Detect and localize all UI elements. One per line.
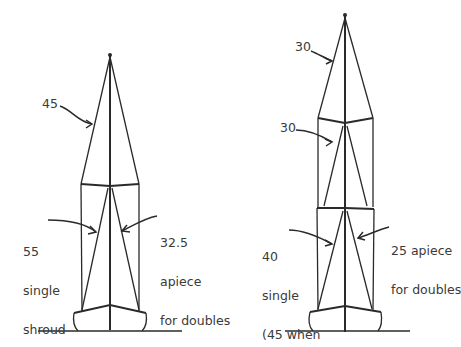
label-upper-shroud-left: 45 bbox=[42, 97, 58, 110]
label-lower-shroud-right: 40 single (45 when abaft mast cl) bbox=[262, 224, 321, 347]
label-line: (45 when bbox=[262, 328, 321, 341]
spreader-left-port bbox=[81, 184, 110, 186]
label-line: for doubles bbox=[160, 314, 230, 327]
label-line: single bbox=[23, 284, 82, 297]
label-upper-shroud-right: 30 bbox=[295, 40, 311, 53]
masthead-right bbox=[343, 13, 347, 17]
upper-spreader-port bbox=[318, 118, 345, 123]
lower-spreader-stbd bbox=[345, 208, 374, 209]
label-line: 32.5 bbox=[160, 236, 230, 249]
label-line: 25 apiece bbox=[391, 244, 461, 257]
label-line: single bbox=[262, 289, 321, 302]
label-line: for doubles bbox=[391, 283, 461, 296]
upper-spreader-stbd bbox=[345, 118, 373, 123]
label-line: 40 bbox=[262, 250, 321, 263]
masthead-left bbox=[108, 53, 112, 57]
label-line: 55 bbox=[23, 245, 82, 258]
label-line: shroud bbox=[23, 323, 82, 336]
label-intermediate-shroud-right: 30 bbox=[280, 121, 296, 134]
label-lower-shroud-left: 55 single shroud (60 when abaft mast cl) bbox=[23, 219, 82, 347]
label-double-lowers-left: 32.5 apiece for doubles bbox=[160, 210, 230, 340]
label-line: apiece bbox=[160, 275, 230, 288]
label-double-lowers-right: 25 apiece for doubles bbox=[391, 218, 461, 309]
spreader-left-stbd bbox=[110, 184, 139, 186]
